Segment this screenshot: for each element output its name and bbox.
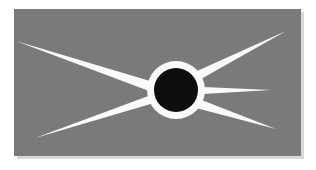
artboard: [0, 0, 316, 170]
starburst-emblem: [0, 0, 316, 170]
black-disc: [154, 68, 198, 112]
